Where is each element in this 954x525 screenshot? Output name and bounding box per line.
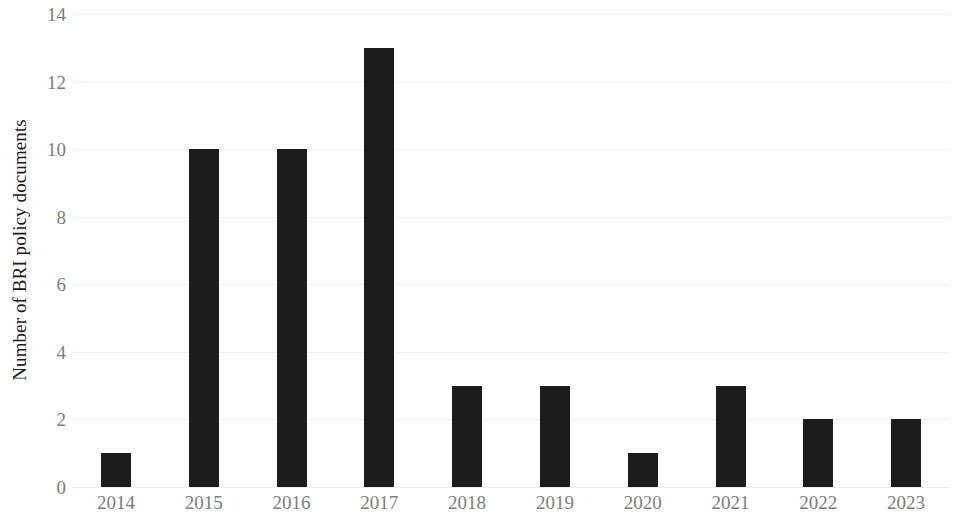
bar-chart: Number of BRI policy documents 024681012…	[0, 0, 954, 525]
gridline	[72, 82, 950, 83]
bar	[628, 453, 658, 487]
x-axis-tick-label: 2018	[422, 492, 512, 515]
plot-area	[72, 14, 950, 487]
y-axis-tick-label: 2	[10, 410, 66, 429]
bar	[540, 386, 570, 487]
x-axis-tick-label: 2022	[773, 492, 863, 515]
y-axis-tick-label: 6	[10, 275, 66, 294]
x-axis-tick-label: 2016	[247, 492, 337, 515]
x-axis-tick-label: 2021	[686, 492, 776, 515]
y-axis-tick-label: 4	[10, 342, 66, 361]
x-axis-tick-label: 2015	[159, 492, 249, 515]
x-axis-tick-label: 2014	[71, 492, 161, 515]
gridline	[72, 14, 950, 15]
x-axis-tick-label: 2020	[598, 492, 688, 515]
x-axis-tick-labels: 2014201520162017201820192020202120222023	[72, 492, 950, 525]
gridline	[72, 487, 950, 488]
bar	[716, 386, 746, 487]
bar	[452, 386, 482, 487]
bar	[891, 419, 921, 487]
y-axis-tick-label: 10	[10, 140, 66, 159]
bar	[364, 48, 394, 487]
y-axis-tick-label: 8	[10, 207, 66, 226]
x-axis-tick-label: 2023	[861, 492, 951, 515]
y-axis-tick-label: 12	[10, 72, 66, 91]
y-axis-tick-labels: 02468101214	[0, 14, 66, 487]
bar	[277, 149, 307, 487]
bar	[101, 453, 131, 487]
y-axis-tick-label: 14	[10, 5, 66, 24]
bar	[803, 419, 833, 487]
y-axis-tick-label: 0	[10, 478, 66, 497]
x-axis-tick-label: 2019	[510, 492, 600, 515]
bar	[189, 149, 219, 487]
x-axis-tick-label: 2017	[334, 492, 424, 515]
